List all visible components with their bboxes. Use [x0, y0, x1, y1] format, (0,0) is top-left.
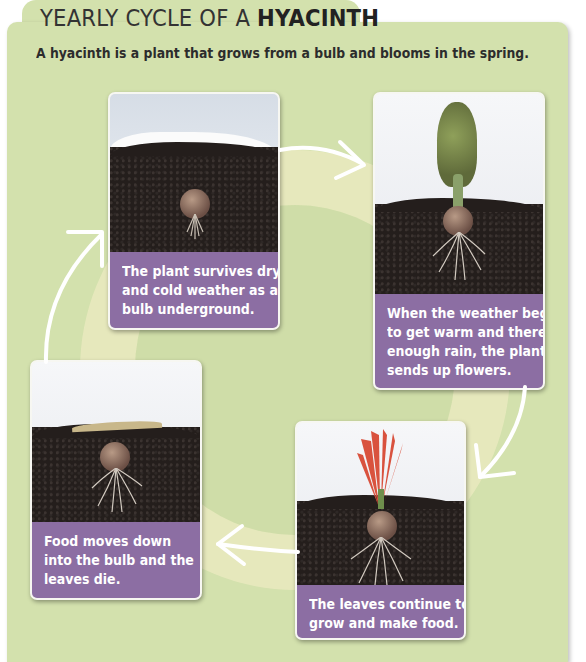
arrow-flowering-to-leaves-grow [470, 385, 540, 485]
page-title: YEARLY CYCLE OF A HYACINTH [40, 5, 379, 31]
hyacinth-flower-bloom-image [375, 94, 543, 294]
bulb-under-snow-image [110, 94, 278, 252]
stage-caption: When the weather beginsto get warm and t… [375, 294, 543, 388]
stage-caption: The leaves continue togrow and make food… [297, 585, 464, 638]
stage-card-leaves-die: Food moves downinto the bulb and theleav… [30, 360, 202, 600]
stage-caption: The plant survives dryand cold weather a… [110, 252, 278, 328]
stage-caption: Food moves downinto the bulb and theleav… [32, 522, 200, 598]
bulb-green-leaves-image [297, 423, 464, 585]
arrow-leaves-die-to-dormant [40, 220, 110, 365]
stage-card-leaves-grow: The leaves continue togrow and make food… [295, 421, 466, 640]
stage-card-dormant: The plant survives dryand cold weather a… [108, 92, 280, 330]
bulb-dying-leaves-image [32, 362, 200, 522]
arrow-dormant-to-flowering [278, 130, 368, 190]
arrow-leaves-grow-to-leaves-die [210, 520, 300, 570]
page-subtitle: A hyacinth is a plant that grows from a … [36, 45, 529, 61]
stage-card-flowering: When the weather beginsto get warm and t… [373, 92, 545, 390]
